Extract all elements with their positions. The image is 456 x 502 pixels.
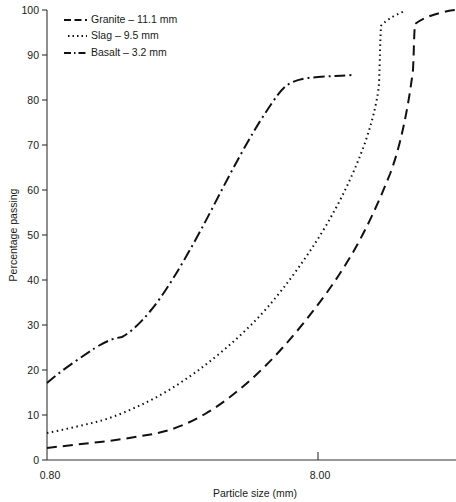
legend-label-basalt: Basalt – 3.2 mm	[91, 46, 167, 58]
x-tick-label-0-80: 0.80	[40, 469, 61, 481]
x-axis-title: Particle size (mm)	[213, 487, 297, 499]
y-tick-label-50: 50	[27, 229, 39, 241]
particle-size-distribution-chart: 100 90 80 70 60 50 40 30 20 10 0 0.80 8.…	[0, 0, 456, 502]
y-tick-label-60: 60	[27, 184, 39, 196]
chart-container: 100 90 80 70 60 50 40 30 20 10 0 0.80 8.…	[0, 0, 456, 502]
y-tick-label-0: 0	[33, 454, 39, 466]
y-axis-ticks	[42, 10, 47, 460]
y-tick-label-90: 90	[27, 49, 39, 61]
y-tick-label-40: 40	[27, 274, 39, 286]
y-tick-label-20: 20	[27, 364, 39, 376]
y-tick-label-80: 80	[27, 94, 39, 106]
legend-label-slag: Slag – 9.5 mm	[91, 29, 159, 41]
legend-label-granite: Granite – 11.1 mm	[91, 13, 177, 25]
y-tick-label-10: 10	[27, 409, 39, 421]
y-tick-label-30: 30	[27, 319, 39, 331]
y-tick-label-100: 100	[21, 4, 39, 16]
x-tick-label-8-00: 8.00	[310, 469, 331, 481]
y-axis-title: Percentage passing	[7, 188, 19, 281]
y-tick-label-70: 70	[27, 139, 39, 151]
series-line-basalt	[47, 75, 352, 383]
series-line-granite	[47, 10, 456, 448]
chart-legend: Granite – 11.1 mm Slag – 9.5 mm Basalt –…	[64, 13, 177, 58]
